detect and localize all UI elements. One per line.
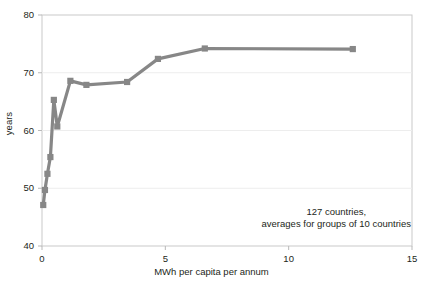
x-tick-label-10: 10 <box>277 253 301 264</box>
data-point-2 <box>44 171 50 177</box>
y-tick-label-70: 70 <box>12 67 34 78</box>
data-point-7 <box>83 82 89 88</box>
series-markers <box>40 45 356 208</box>
data-point-9 <box>155 56 161 62</box>
x-tick-label-15: 15 <box>400 253 423 264</box>
annotation-line-1: 127 countries, <box>262 206 411 218</box>
y-tick-label-50: 50 <box>12 182 34 193</box>
y-axis-ticks <box>38 15 42 246</box>
data-point-8 <box>124 79 130 85</box>
chart-annotation: 127 countries, averages for groups of 10… <box>262 206 411 230</box>
line-chart-plot <box>0 0 423 288</box>
annotation-line-2: averages for groups of 10 countries <box>262 218 411 230</box>
data-point-0 <box>40 202 46 208</box>
series-line <box>43 48 353 205</box>
x-tick-label-0: 0 <box>30 253 54 264</box>
y-tick-label-40: 40 <box>12 240 34 251</box>
y-tick-label-80: 80 <box>12 9 34 20</box>
gridlines <box>42 73 412 189</box>
data-point-10 <box>202 45 208 51</box>
data-point-4 <box>51 97 57 103</box>
data-point-3 <box>47 154 53 160</box>
chart-container: years MWh per capita per annum 127 count… <box>0 0 423 288</box>
x-tick-label-5: 5 <box>153 253 177 264</box>
y-tick-label-60: 60 <box>12 125 34 136</box>
x-axis-ticks <box>42 246 412 250</box>
data-point-5 <box>54 123 60 129</box>
y-axis-title: years <box>3 104 14 144</box>
data-point-1 <box>42 187 48 193</box>
data-point-11 <box>350 46 356 52</box>
data-point-6 <box>67 78 73 84</box>
x-axis-title: MWh per capita per annum <box>0 266 423 277</box>
